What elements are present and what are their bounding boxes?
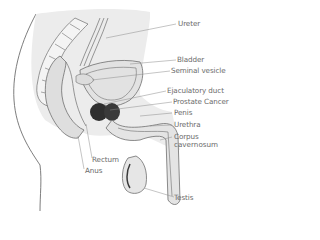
label-testis: Testis <box>174 194 193 202</box>
label-seminal-vesicle: Seminal vesicle <box>171 67 226 75</box>
label-anus: Anus <box>85 167 102 175</box>
label-urethra: Urethra <box>174 121 201 129</box>
label-cavernosum: cavernosum <box>174 141 218 149</box>
label-prostate-cancer: Prostate Cancer <box>173 98 229 106</box>
label-penis: Penis <box>174 109 192 117</box>
label-ejaculatory-duct: Ejaculatory duct <box>167 87 224 95</box>
testis-shape <box>122 156 146 193</box>
label-rectum: Rectum <box>92 156 119 164</box>
label-ureter: Ureter <box>178 20 200 28</box>
label-bladder: Bladder <box>177 56 204 64</box>
